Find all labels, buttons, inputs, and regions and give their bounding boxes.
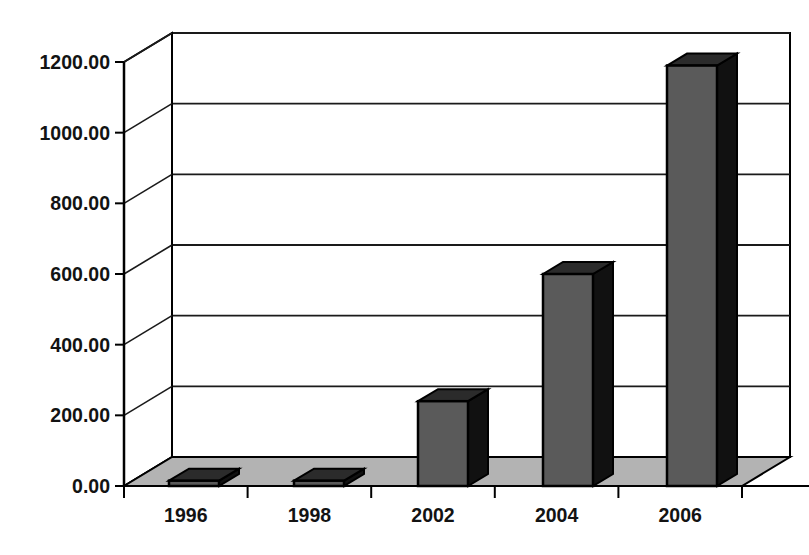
y-tick-label: 1000.00 xyxy=(40,122,111,144)
x-tick-label: 2004 xyxy=(535,504,579,526)
y-tick-label: 200.00 xyxy=(50,404,110,426)
x-tick-label: 2006 xyxy=(659,504,703,526)
y-tick-label: 600.00 xyxy=(50,263,110,285)
x-axis-tick-labels: 19961998200220042006 xyxy=(164,504,702,526)
y-axis-tick-labels: 0.00200.00400.00600.00800.001000.001200.… xyxy=(40,51,111,497)
bar-side-face xyxy=(468,389,488,486)
x-tick-label: 1998 xyxy=(288,504,332,526)
bar-side-face xyxy=(593,262,613,486)
bar-2006 xyxy=(667,54,737,486)
chart-container: 0.00200.00400.00600.00800.001000.001200.… xyxy=(0,0,809,555)
y-tick-label: 1200.00 xyxy=(40,51,111,73)
y-tick-label: 0.00 xyxy=(72,475,110,497)
x-axis-tick-marks xyxy=(124,486,742,498)
bar-front-face xyxy=(418,401,468,486)
y-tick-label: 800.00 xyxy=(50,192,110,214)
bar-side-face xyxy=(717,54,737,486)
x-tick-label: 2002 xyxy=(411,504,455,526)
bar-2002 xyxy=(418,389,488,486)
y-axis-tick-marks xyxy=(115,62,124,486)
bar-chart-3d: 0.00200.00400.00600.00800.001000.001200.… xyxy=(0,0,809,555)
bar-front-face xyxy=(543,274,593,486)
x-tick-label: 1996 xyxy=(164,504,208,526)
bar-front-face xyxy=(667,66,717,486)
y-tick-label: 400.00 xyxy=(50,334,110,356)
bar-2004 xyxy=(543,262,613,486)
